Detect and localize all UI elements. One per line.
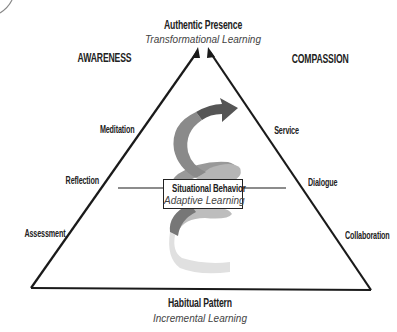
center-subtitle: Adaptive Learning [164,196,242,206]
center-box: Situational Behavior Adaptive Learning [163,179,243,209]
base-line [31,288,371,290]
practice-service: Service [274,126,296,136]
practice-assessment: Assessment [24,229,57,239]
center-title: Situational Behavior [172,183,234,194]
left-arrowhead-icon [192,47,200,58]
apex-subtitle: Transformational Learning [140,35,266,45]
awareness-heading: AWARENESS [78,52,117,64]
compassion-heading: COMPASSION [292,53,337,65]
base-title: Habitual Pattern [164,297,236,309]
practice-reflection: Reflection [66,176,95,186]
corner-arc-decoration [0,0,12,13]
practice-collaboration: Collaboration [345,231,381,241]
triangle-diagram [0,0,397,332]
practice-dialogue: Dialogue [308,178,334,188]
base-subtitle: Incremental Learning [150,314,250,324]
right-arrowhead-icon [207,47,215,58]
apex-title: Authentic Presence [163,19,242,31]
practice-meditation: Meditation [100,125,130,135]
diagram-canvas: Authentic Presence Transformational Lear… [0,0,397,332]
